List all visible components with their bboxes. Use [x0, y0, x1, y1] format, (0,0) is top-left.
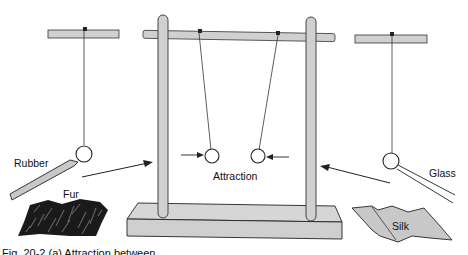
- fur-label: Fur: [63, 188, 79, 200]
- rubber-label: Rubber: [14, 157, 48, 169]
- glass-label: Glass: [429, 167, 456, 179]
- attraction-label: Attraction: [213, 170, 257, 182]
- silk-label: Silk: [392, 220, 409, 232]
- left-pendulum: [10, 27, 153, 200]
- stand: [127, 15, 342, 239]
- electrostatics-diagram: [0, 0, 468, 255]
- figure-caption: Fig. 20-2 (a) Attraction between: [2, 246, 155, 255]
- fur-swatch: [18, 199, 108, 236]
